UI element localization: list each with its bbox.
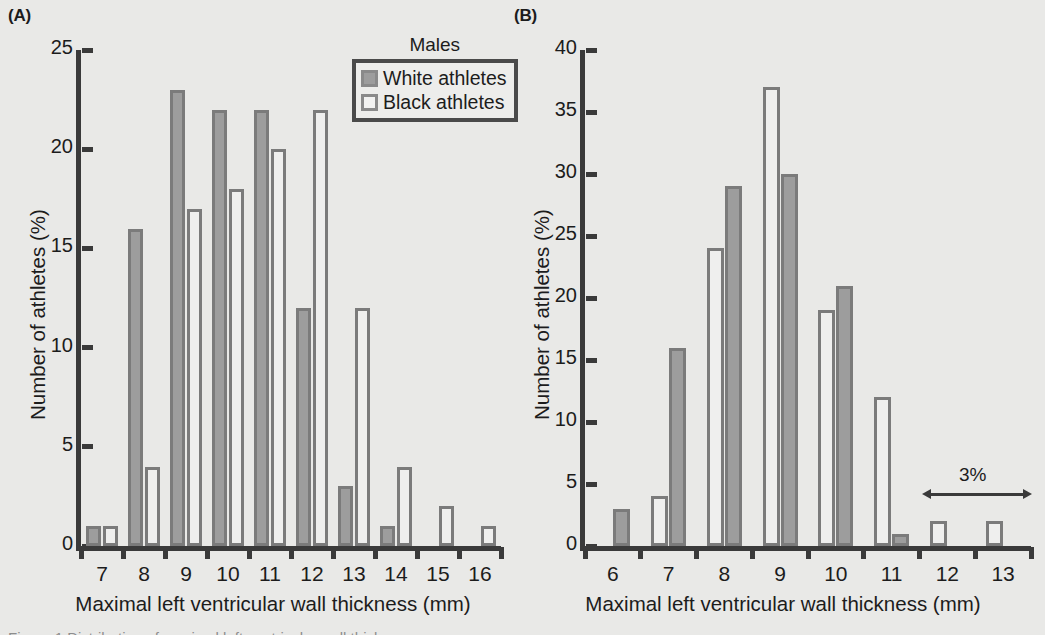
- y-tick-label: 5: [62, 434, 73, 454]
- x-tick-mark: [1029, 547, 1034, 559]
- bar: [103, 526, 119, 546]
- bar: [669, 348, 686, 546]
- bar: [170, 90, 186, 546]
- bar: [836, 286, 853, 546]
- bar: [296, 308, 312, 546]
- y-tick-label: 20: [555, 285, 577, 305]
- bar: [439, 506, 455, 546]
- y-tick-mark: [586, 296, 597, 301]
- bar: [986, 521, 1003, 546]
- x-tick-mark: [331, 547, 336, 559]
- y-tick-label: 5: [566, 471, 577, 491]
- x-tick-mark: [638, 547, 643, 559]
- figure-caption: Figure 1 Distribution of maximal left ve…: [8, 629, 413, 635]
- x-tick-mark: [121, 547, 126, 559]
- legend-entry-black-athletes: Black athletes: [361, 90, 507, 114]
- bar: [128, 229, 144, 546]
- panel-b: (B) Number of athletes (%) Maximal left …: [508, 0, 1045, 635]
- x-tick-label: 13: [973, 563, 1033, 585]
- x-tick-label: 10: [806, 563, 866, 585]
- x-tick-label: 7: [639, 563, 699, 585]
- x-tick-label: 8: [694, 563, 754, 585]
- bar: [187, 209, 203, 546]
- panel-a-x-axis-label: Maximal left ventricular wall thickness …: [38, 592, 508, 616]
- bar: [355, 308, 371, 546]
- y-tick-mark: [82, 246, 93, 251]
- y-tick-mark: [586, 234, 597, 239]
- panel-b-plot-area: 05101520253035406789101112133%: [580, 50, 1031, 551]
- y-tick-mark: [82, 444, 93, 449]
- y-tick-label: 30: [555, 161, 577, 181]
- y-tick-label: 40: [555, 37, 577, 57]
- bar: [818, 310, 835, 546]
- panel-b-x-axis-label: Maximal left ventricular wall thickness …: [538, 592, 1028, 616]
- bar: [725, 186, 742, 546]
- legend-swatch-filled-icon: [361, 70, 378, 87]
- x-tick-mark: [806, 547, 811, 559]
- bar: [338, 486, 354, 546]
- y-tick-mark: [586, 482, 597, 487]
- x-tick-mark: [861, 547, 866, 559]
- y-tick-mark: [586, 110, 597, 115]
- panel-b-letter: (B): [514, 6, 537, 26]
- panel-a-plot-area: 051015202578910111213141516: [76, 50, 501, 551]
- y-tick-label: 0: [62, 533, 73, 553]
- bar: [892, 534, 909, 546]
- y-tick-mark: [586, 358, 597, 363]
- x-tick-mark: [205, 547, 210, 559]
- x-tick-mark: [79, 547, 84, 559]
- y-tick-label: 10: [555, 409, 577, 429]
- y-tick-label: 25: [555, 223, 577, 243]
- double-arrow-icon: [930, 493, 1025, 496]
- y-tick-label: 0: [566, 533, 577, 553]
- panel-b-y-axis-label: Number of athletes (%): [530, 209, 554, 420]
- y-tick-mark: [586, 420, 597, 425]
- y-tick-label: 20: [51, 136, 73, 156]
- bar: [397, 467, 413, 546]
- x-tick-mark: [415, 547, 420, 559]
- y-tick-mark: [82, 147, 93, 152]
- x-tick-label: 6: [583, 563, 643, 585]
- bar: [707, 248, 724, 546]
- y-tick-mark: [586, 48, 597, 53]
- y-tick-label: 15: [555, 347, 577, 367]
- x-tick-mark: [694, 547, 699, 559]
- bar: [380, 526, 396, 546]
- bar: [781, 174, 798, 546]
- x-tick-mark: [917, 547, 922, 559]
- x-tick-mark: [499, 547, 504, 559]
- bar: [229, 189, 245, 546]
- x-tick-label: 12: [917, 563, 977, 585]
- bar: [763, 87, 780, 546]
- bar: [145, 467, 161, 546]
- y-tick-mark: [586, 172, 597, 177]
- y-tick-mark: [82, 48, 93, 53]
- x-tick-mark: [583, 547, 588, 559]
- bar: [86, 526, 102, 546]
- bar: [254, 110, 270, 546]
- legend-label-white-athletes: White athletes: [383, 66, 507, 90]
- panel-a-legend: Males White athletes Black athletes: [352, 34, 518, 122]
- panel-a-legend-title: Males: [352, 34, 518, 56]
- y-tick-label: 15: [51, 235, 73, 255]
- x-tick-mark: [289, 547, 294, 559]
- bar: [481, 526, 497, 546]
- panel-a-y-axis-label: Number of athletes (%): [26, 209, 50, 420]
- x-tick-mark: [973, 547, 978, 559]
- bar: [271, 149, 287, 546]
- y-tick-label: 35: [555, 99, 577, 119]
- bar: [313, 110, 329, 546]
- x-tick-label: 11: [862, 563, 922, 585]
- x-tick-mark: [750, 547, 755, 559]
- legend-swatch-hollow-icon: [361, 94, 378, 111]
- x-tick-label: 9: [750, 563, 810, 585]
- y-tick-mark: [82, 345, 93, 350]
- panel-a-legend-box: White athletes Black athletes: [352, 59, 518, 122]
- bar: [930, 521, 947, 546]
- bar: [613, 509, 630, 546]
- panel-a-letter: (A): [8, 6, 31, 26]
- bar: [212, 110, 228, 546]
- x-tick-label: 16: [450, 563, 510, 585]
- legend-entry-white-athletes: White athletes: [361, 66, 507, 90]
- annotation-label-3-percent: 3%: [959, 464, 986, 486]
